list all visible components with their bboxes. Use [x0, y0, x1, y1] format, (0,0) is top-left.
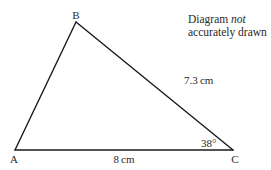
note-line-1-text: Diagram [188, 13, 231, 25]
vertex-label-a: A [10, 153, 18, 165]
note-line-1: Diagram not [188, 13, 267, 26]
edge-bc [76, 22, 233, 150]
vertex-label-b: B [72, 9, 79, 21]
note-emphasis: not [231, 13, 246, 25]
side-label-bc: 7.3 cm [184, 74, 214, 86]
triangle-edges [15, 22, 233, 150]
vertex-label-c: C [231, 153, 238, 165]
angle-label-c: 38° [201, 137, 216, 149]
side-label-ac: 8 cm [113, 153, 135, 165]
not-to-scale-note: Diagram not accurately drawn [188, 13, 267, 39]
note-line-2: accurately drawn [188, 26, 267, 39]
edge-ab [15, 22, 76, 150]
